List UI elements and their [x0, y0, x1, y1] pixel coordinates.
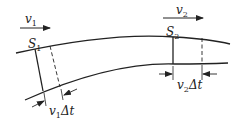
flow-tube-diagram: v1 v2 S1 S2 v1Δt v2Δt: [0, 0, 245, 121]
v1dt-right-arrow: [64, 89, 77, 95]
svg-text:v1: v1: [25, 12, 37, 28]
v1dt-left-arrow: [32, 101, 44, 107]
tube-top-wall: [16, 36, 230, 53]
section-s1-displaced-line: [50, 46, 60, 87]
svg-text:S1: S1: [28, 37, 41, 53]
svg-text:v2Δt: v2Δt: [177, 78, 203, 94]
svg-text:S2: S2: [166, 25, 179, 41]
s2-label: S: [166, 25, 174, 39]
v1dt-right-tick: [61, 89, 63, 100]
svg-text:v1Δt: v1Δt: [49, 104, 75, 120]
s1-label: S: [28, 37, 36, 51]
svg-text:v2: v2: [176, 3, 188, 19]
v1dt-left-tick: [44, 93, 46, 106]
section-s1-line: [35, 49, 43, 91]
